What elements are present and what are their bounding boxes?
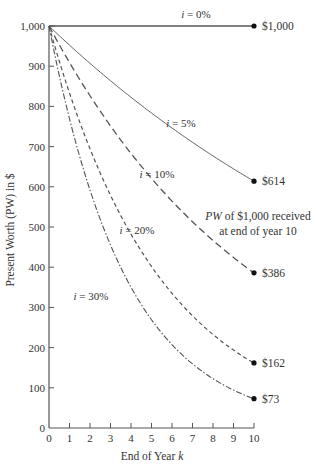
end-value-label: $386 [262,267,285,279]
x-axis-title: End of Year k [121,450,185,462]
annotation: PW of $1,000 received [204,210,311,223]
x-tick-label: 5 [149,432,155,444]
x-tick-label: 10 [249,432,261,444]
end-point-marker [251,179,256,184]
end-value-label: $162 [262,357,285,369]
y-tick-label: 700 [29,141,46,153]
x-tick-label: 3 [108,432,114,444]
series-label: i = 30% [74,290,109,302]
end-point-marker [251,360,256,365]
end-value-label: $1,000 [262,20,294,33]
y-tick-label: 800 [29,100,46,112]
end-point-marker [251,23,256,28]
curve-20pct [49,26,254,363]
y-tick-label: 400 [29,261,46,273]
x-axis-title-text: End of Year [121,450,179,462]
x-tick-label: 6 [169,432,175,444]
x-tick-label: 4 [128,432,134,444]
y-axis-title: Present Worth (PW) in $ [4,173,17,286]
y-tick-label: 200 [29,342,46,354]
end-value-label: $614 [262,175,285,187]
y-tick-label: 900 [29,60,46,72]
y-tick-label: 0 [40,422,46,434]
y-tick-label: 1,000 [20,20,45,32]
end-point-marker [251,396,256,401]
annotation-line1: of $1,000 received [222,210,311,223]
series-labels: i = 0%i = 5%i = 10%i = 20%i = 30% [74,8,211,302]
y-tick-label: 100 [29,382,46,394]
end-value-label: $73 [262,393,280,405]
y-tick-label: 300 [29,301,46,313]
series-label: i = 0% [181,8,210,20]
x-tick-label: 7 [190,432,196,444]
x-tick-label: 1 [67,432,73,444]
annotation-line2: at end of year 10 [219,225,297,238]
series-label: i = 20% [120,224,155,236]
x-axis-title-var: k [178,450,184,462]
end-point-marker [251,270,256,275]
y-tick-label: 600 [29,181,46,193]
x-tick-label: 9 [231,432,237,444]
present-worth-chart: 01002003004005006007008009001,0000123456… [0,0,316,468]
series-label: i = 5% [166,117,195,129]
series-label: i = 10% [140,168,175,180]
y-tick-label: 500 [29,221,46,233]
x-tick-label: 2 [87,432,93,444]
x-tick-label: 0 [46,432,52,444]
x-tick-label: 8 [210,432,216,444]
annotation-pw: PW [204,210,223,222]
